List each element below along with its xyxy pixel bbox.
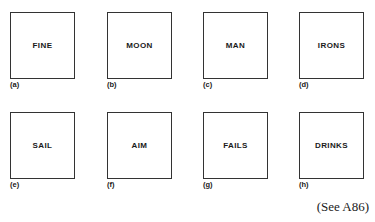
word-box: IRONS <box>299 12 364 79</box>
word-box: SAIL <box>10 112 75 179</box>
word-card-g: FAILS (g) <box>203 112 269 189</box>
panel-label: (h) <box>299 180 365 189</box>
word-box: MAN <box>203 12 268 79</box>
word-card-a: FINE (a) <box>10 12 76 89</box>
word-card-h: DRINKS (h) <box>299 112 365 189</box>
panel-label: (a) <box>10 80 76 89</box>
word-card-e: SAIL (e) <box>10 112 76 189</box>
word-box: MOON <box>107 12 172 79</box>
word-card-f: AIM (f) <box>107 112 173 189</box>
word-card-c: MAN (c) <box>203 12 269 89</box>
word-text: MOON <box>126 41 153 50</box>
panel-label: (e) <box>10 180 76 189</box>
panel-label: (c) <box>203 80 269 89</box>
word-text: AIM <box>132 141 148 150</box>
word-text: FINE <box>33 41 53 50</box>
panel-label: (g) <box>203 180 269 189</box>
panel-label: (d) <box>299 80 365 89</box>
word-box: FINE <box>10 12 75 79</box>
word-box: FAILS <box>203 112 268 179</box>
word-text: IRONS <box>318 41 345 50</box>
panel-label: (f) <box>107 180 173 189</box>
word-text: MAN <box>226 41 245 50</box>
word-text: DRINKS <box>315 141 348 150</box>
word-text: FAILS <box>223 141 248 150</box>
word-box: DRINKS <box>299 112 364 179</box>
word-text: SAIL <box>33 141 53 150</box>
word-box: AIM <box>107 112 172 179</box>
panel-label: (b) <box>107 80 173 89</box>
word-card-b: MOON (b) <box>107 12 173 89</box>
answer-reference: (See A86) <box>317 199 369 215</box>
word-card-d: IRONS (d) <box>299 12 365 89</box>
